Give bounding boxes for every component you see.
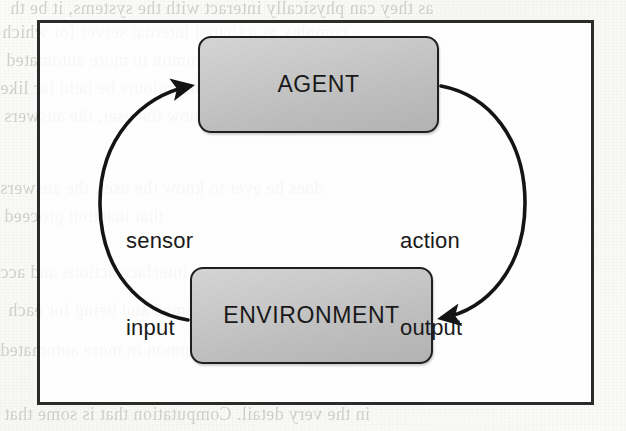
edge-label-action-output-line2: output: [400, 313, 462, 342]
edge-label-sensor-input: sensor input: [126, 167, 193, 401]
showthrough-line: in the very detail. Computation that is …: [4, 404, 370, 425]
edge-label-sensor-input-line2: input: [126, 313, 193, 342]
node-agent-label: AGENT: [277, 71, 359, 98]
scanned-figure-page: as they can physically interact with the…: [0, 0, 626, 431]
edge-label-action-output: action output: [400, 167, 462, 401]
node-environment-label: ENVIRONMENT: [223, 302, 400, 329]
edge-label-action-output-line1: action: [400, 226, 462, 255]
node-agent[interactable]: AGENT: [198, 36, 439, 133]
edge-label-sensor-input-line1: sensor: [126, 226, 193, 255]
node-environment[interactable]: ENVIRONMENT: [190, 267, 433, 364]
showthrough-line: as they can physically interact with the…: [10, 0, 434, 19]
